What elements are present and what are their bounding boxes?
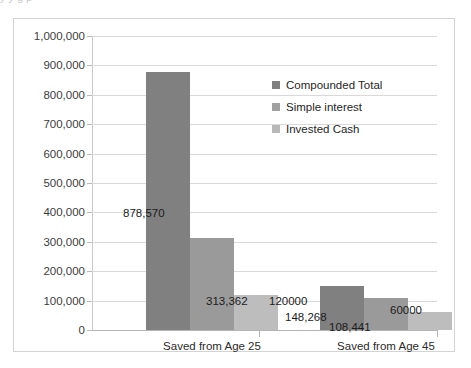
gridline xyxy=(92,36,437,37)
y-axis-tick-label: 900,000 xyxy=(21,59,85,71)
y-axis-tick xyxy=(87,301,92,302)
y-axis-tick-label: 0 xyxy=(21,324,85,336)
legend-item[interactable]: Simple interest xyxy=(272,96,412,118)
y-axis-tick-label: 1,000,000 xyxy=(21,30,85,42)
gridline xyxy=(92,242,437,243)
bar-data-label: 108,441 xyxy=(329,321,371,333)
chart-legend: Compounded TotalSimple interestInvested … xyxy=(272,74,412,140)
x-axis-category-label: Saved from Age 25 xyxy=(142,340,282,352)
y-axis-tick xyxy=(87,124,92,125)
legend-swatch-icon xyxy=(272,103,280,111)
gridline xyxy=(92,183,437,184)
bar-data-label: 313,362 xyxy=(206,295,248,307)
bar-data-label: 120000 xyxy=(269,295,307,307)
category-separator-tick xyxy=(259,330,260,337)
x-axis-category-label: Saved from Age 45 xyxy=(316,340,456,352)
y-axis-tick-label: 700,000 xyxy=(21,118,85,130)
y-axis-tick-label: 100,000 xyxy=(21,295,85,307)
y-axis-tick xyxy=(87,154,92,155)
y-axis-tick xyxy=(87,242,92,243)
y-axis-tick-label: 300,000 xyxy=(21,236,85,248)
y-axis-tick xyxy=(87,183,92,184)
y-axis-tick-label: 200,000 xyxy=(21,265,85,277)
bar-simple-interest xyxy=(190,238,234,330)
legend-swatch-icon xyxy=(272,81,280,89)
y-axis-tick xyxy=(87,330,92,331)
gridline xyxy=(92,271,437,272)
x-axis-end-tick xyxy=(437,330,438,337)
chart-container: 1,000,000900,000800,000700,000600,000500… xyxy=(13,18,455,352)
legend-item[interactable]: Invested Cash xyxy=(272,118,412,140)
y-axis-tick xyxy=(87,36,92,37)
bar-compounded-total xyxy=(146,72,190,330)
scan-artifact-top: y y g p xyxy=(0,0,471,14)
y-axis-tick xyxy=(87,65,92,66)
y-axis-tick-label: 400,000 xyxy=(21,206,85,218)
x-axis-line xyxy=(92,330,438,331)
y-axis-tick xyxy=(87,212,92,213)
y-axis-tick-label: 600,000 xyxy=(21,148,85,160)
gridline xyxy=(92,65,437,66)
bar-data-label: 148,268 xyxy=(285,311,327,323)
legend-item[interactable]: Compounded Total xyxy=(272,74,412,96)
y-axis-tick-label: 800,000 xyxy=(21,89,85,101)
bar-data-label: 878,570 xyxy=(123,207,165,219)
legend-swatch-icon xyxy=(272,125,280,133)
legend-label: Simple interest xyxy=(286,101,362,113)
bar-data-label: 60000 xyxy=(390,304,422,316)
y-axis-tick xyxy=(87,95,92,96)
gridline xyxy=(92,154,437,155)
y-axis-tick xyxy=(87,271,92,272)
y-axis-labels: 1,000,000900,000800,000700,000600,000500… xyxy=(14,19,85,353)
scan-artifact-text: y y g p xyxy=(0,0,32,3)
legend-label: Invested Cash xyxy=(286,123,360,135)
y-axis-tick-label: 500,000 xyxy=(21,177,85,189)
legend-label: Compounded Total xyxy=(286,79,382,91)
